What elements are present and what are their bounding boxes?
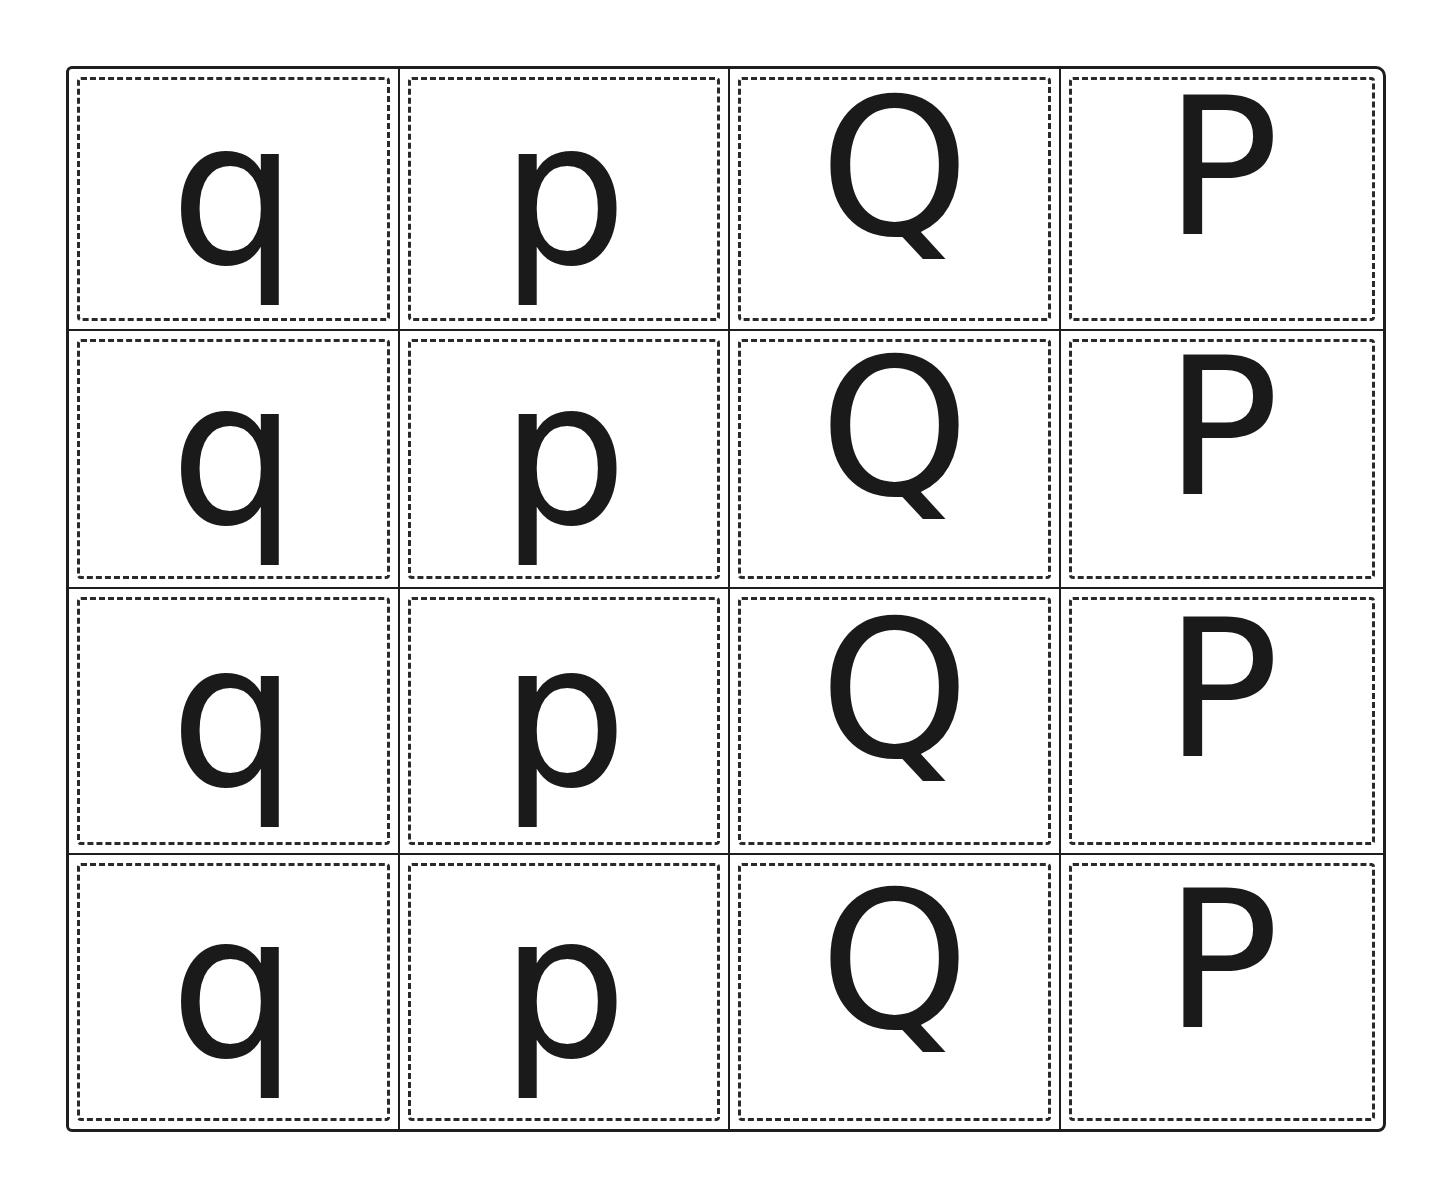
letter-p-lowercase: p [501, 94, 628, 294]
letter-card: q [69, 589, 400, 855]
letter-card: p [400, 589, 730, 855]
letter-card: Q [730, 589, 1061, 855]
letter-card: p [400, 855, 730, 1129]
letter-card: q [69, 331, 400, 589]
letter-card: p [400, 69, 730, 331]
letter-card: P [1061, 331, 1383, 589]
letter-q-uppercase: Q [820, 867, 970, 1057]
letter-q-lowercase: q [170, 354, 297, 554]
letter-card: q [69, 69, 400, 331]
letter-p-lowercase: p [501, 354, 628, 554]
letter-card-grid: q p Q P q p Q P q p Q P [66, 66, 1386, 1132]
letter-card: P [1061, 589, 1383, 855]
letter-q-uppercase: Q [820, 596, 970, 786]
letter-q-lowercase: q [170, 887, 297, 1087]
letter-card: q [69, 855, 400, 1129]
letter-p-uppercase: P [1165, 334, 1280, 524]
letter-card: Q [730, 331, 1061, 589]
letter-p-lowercase: p [501, 616, 628, 816]
letter-card: P [1061, 855, 1383, 1129]
letter-q-lowercase: q [170, 616, 297, 816]
letter-q-lowercase: q [170, 94, 297, 294]
letter-q-uppercase: Q [820, 74, 970, 264]
letter-card: p [400, 331, 730, 589]
letter-card: Q [730, 69, 1061, 331]
letter-p-uppercase: P [1165, 74, 1280, 264]
letter-p-uppercase: P [1165, 596, 1280, 786]
letter-card: Q [730, 855, 1061, 1129]
letter-card: P [1061, 69, 1383, 331]
letter-q-uppercase: Q [820, 334, 970, 524]
letter-p-lowercase: p [501, 887, 628, 1087]
letter-p-uppercase: P [1165, 867, 1280, 1057]
